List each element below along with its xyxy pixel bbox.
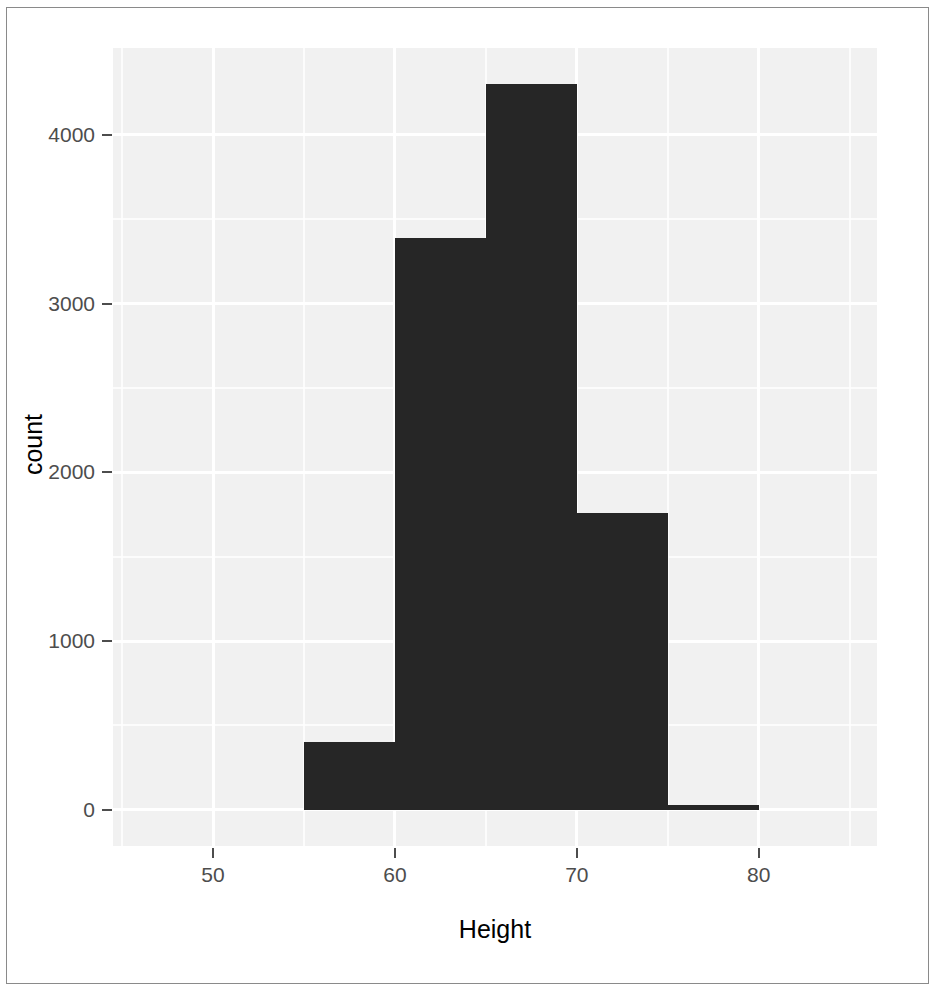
- x-tick-label: 70: [565, 864, 588, 885]
- x-tick-label: 60: [383, 864, 406, 885]
- x-tick-mark: [758, 848, 760, 858]
- x-tick-label: 50: [201, 864, 224, 885]
- histogram-figure: 01000200030004000 50607080 Height count: [0, 0, 937, 992]
- x-axis: 50607080: [0, 0, 937, 992]
- x-axis-title: Height: [113, 915, 877, 944]
- x-tick-label: 80: [747, 864, 770, 885]
- y-axis-title: count: [19, 365, 48, 525]
- x-tick-mark: [394, 848, 396, 858]
- x-tick-mark: [212, 848, 214, 858]
- x-tick-mark: [576, 848, 578, 858]
